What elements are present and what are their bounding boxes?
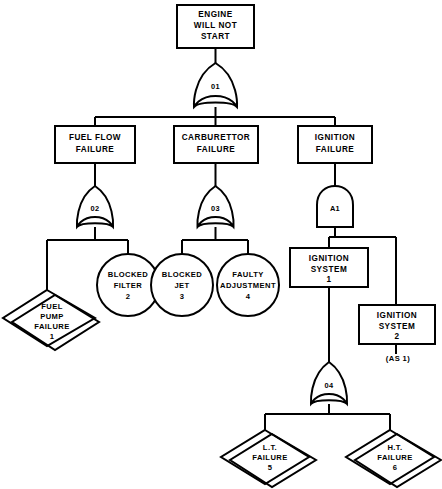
node-ignition-system-2[interactable]: IGNITION SYSTEM 2 <box>359 305 435 344</box>
gate-g2-label: 02 <box>90 204 99 213</box>
node-fuel-flow-failure[interactable]: FUEL FLOW FAILURE <box>55 126 135 163</box>
gate-or-g2[interactable]: 02 <box>77 186 113 227</box>
node-blocked-filter[interactable]: BLOCKED FILTER 2 <box>97 254 159 316</box>
gate-or-g1[interactable]: 01 <box>194 63 237 107</box>
node-top-event[interactable]: ENGINE WILL NOT START <box>177 5 254 48</box>
ignition-system-2-label-1: IGNITION <box>377 311 417 320</box>
gate-or-g3[interactable]: 03 <box>197 186 233 227</box>
fuel-flow-label-2: FAILURE <box>76 145 115 154</box>
ignition-system-2-note: (AS 1) <box>386 354 410 363</box>
blocked-jet-label-1: BLOCKED <box>162 270 202 279</box>
carburettor-label-1: CARBURETTOR <box>182 133 251 142</box>
gate-a1-label: A1 <box>330 204 340 213</box>
node-lt-failure[interactable]: L.T. FAILURE 5 <box>221 430 316 487</box>
node-carburettor-failure[interactable]: CARBURETTOR FAILURE <box>174 126 258 163</box>
ht-failure-label-1: H.T. <box>387 443 402 452</box>
lt-failure-label-2: FAILURE <box>252 453 287 462</box>
fuel-pump-label-1: FUEL <box>41 302 62 311</box>
blocked-jet-label-2: JET <box>174 281 189 290</box>
top-event-label-1: ENGINE <box>198 10 232 19</box>
ignition-system-1-label-1: IGNITION <box>309 254 349 263</box>
gate-g1-label: 01 <box>211 82 220 91</box>
node-ht-failure[interactable]: H.T. FAILURE 6 <box>346 430 441 487</box>
node-ignition-failure[interactable]: IGNITION FAILURE <box>298 126 372 163</box>
blocked-filter-label-3: 2 <box>126 292 131 301</box>
ignition-system-2-label-3: 2 <box>394 332 399 341</box>
faulty-adjustment-label-2: ADJUSTMENT <box>220 281 276 290</box>
ignition-label-1: IGNITION <box>315 133 355 142</box>
lt-failure-label-3: 5 <box>268 463 273 472</box>
gate-and-a1[interactable]: A1 <box>317 186 353 227</box>
node-blocked-jet[interactable]: BLOCKED JET 3 <box>151 254 213 316</box>
lt-failure-label-1: L.T. <box>263 443 277 452</box>
blocked-filter-label-2: FILTER <box>114 281 143 290</box>
top-event-label-2: WILL NOT <box>194 21 237 30</box>
fuel-pump-label-2: PUMP <box>40 312 64 321</box>
ignition-label-2: FAILURE <box>316 145 355 154</box>
gate-or-g4[interactable]: 04 <box>311 362 347 404</box>
node-fuel-pump-failure[interactable]: FUEL PUMP FAILURE 1 <box>3 290 99 350</box>
carburettor-label-2: FAILURE <box>197 145 236 154</box>
node-faulty-adjustment[interactable]: FAULTY ADJUSTMENT 4 <box>217 254 279 316</box>
ignition-system-1-label-3: 1 <box>326 275 331 284</box>
faulty-adjustment-label-3: 4 <box>246 292 251 301</box>
top-event-label-3: START <box>201 32 230 41</box>
gate-g4-label: 04 <box>324 381 334 390</box>
fuel-flow-label-1: FUEL FLOW <box>69 133 121 142</box>
fault-tree-diagram: ENGINE WILL NOT START 01 FUEL FLOW FAILU… <box>0 0 442 489</box>
fault-tree-canvas: ENGINE WILL NOT START 01 FUEL FLOW FAILU… <box>0 0 442 489</box>
node-ignition-system-1[interactable]: IGNITION SYSTEM 1 <box>290 248 368 287</box>
gate-g3-label: 03 <box>211 204 220 213</box>
faulty-adjustment-label-1: FAULTY <box>232 270 263 279</box>
fuel-pump-label-3: FAILURE <box>34 322 69 331</box>
ht-failure-label-2: FAILURE <box>377 453 412 462</box>
ignition-system-2-label-2: SYSTEM <box>379 322 416 331</box>
ht-failure-label-3: 6 <box>393 463 398 472</box>
ignition-system-1-label-2: SYSTEM <box>311 265 348 274</box>
fuel-pump-label-4: 1 <box>50 332 55 341</box>
blocked-jet-label-3: 3 <box>180 292 185 301</box>
blocked-filter-label-1: BLOCKED <box>108 270 148 279</box>
